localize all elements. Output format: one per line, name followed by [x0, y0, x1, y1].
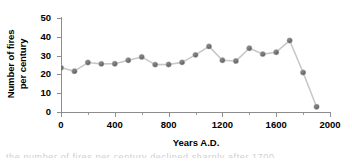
x-axis-tick-label: 2000	[310, 119, 350, 130]
x-axis-tick	[169, 113, 170, 117]
y-axis-title: Number of fires per century	[0, 12, 42, 116]
x-axis-tick	[330, 113, 331, 117]
data-point-marker	[126, 58, 131, 63]
data-point-marker	[112, 61, 117, 66]
x-axis-tick	[115, 113, 116, 117]
cut-off-caption-text: the number of fires per century declined…	[6, 153, 346, 158]
data-point-marker	[166, 62, 171, 67]
x-axis-title: Years A.D.	[61, 137, 331, 148]
y-axis-tick-label: 30	[25, 50, 51, 61]
data-point-marker	[287, 38, 292, 43]
x-axis-tick-label: 400	[95, 119, 135, 130]
x-axis-tick-label: 800	[149, 119, 189, 130]
data-point-marker	[233, 58, 238, 63]
data-point-marker	[220, 58, 225, 63]
fire-count-series	[61, 18, 330, 112]
y-axis-title-text: Number of fires per century	[5, 12, 37, 116]
data-point-marker	[300, 70, 305, 75]
data-point-marker	[247, 46, 252, 51]
data-point-marker	[152, 62, 157, 67]
x-axis-tick-label: 1600	[256, 119, 296, 130]
data-point-marker	[206, 44, 211, 49]
y-axis-tick-label: 20	[25, 68, 51, 79]
plot-area	[61, 18, 330, 112]
x-axis-minor-tick	[196, 113, 197, 115]
data-point-marker	[139, 54, 144, 59]
data-point-marker	[85, 60, 90, 65]
y-axis-title-line-1: Number of fires	[5, 30, 16, 99]
y-axis-tick-label: 40	[25, 31, 51, 42]
data-point-marker	[179, 60, 184, 65]
data-point-marker	[99, 61, 104, 66]
x-axis-tick	[61, 113, 62, 117]
x-axis-tick-label: 0	[41, 119, 81, 130]
data-point-marker	[72, 69, 77, 74]
y-axis-tick-label: 10	[25, 87, 51, 98]
x-axis-minor-tick	[142, 113, 143, 115]
x-axis-tick-label: 1200	[202, 119, 242, 130]
x-axis-minor-tick	[303, 113, 304, 115]
x-axis-minor-tick	[249, 113, 250, 115]
y-axis-tick-label: 50	[25, 12, 51, 23]
y-axis-title-line-2: per century	[17, 39, 28, 90]
x-axis-minor-tick	[88, 113, 89, 115]
y-axis-tick-label: 0	[25, 106, 51, 117]
data-point-marker	[314, 104, 319, 109]
data-point-marker	[61, 65, 64, 70]
fire-frequency-line-chart: Number of fires per century 01020304050 …	[0, 0, 352, 161]
data-point-marker	[193, 52, 198, 57]
data-point-marker	[274, 50, 279, 55]
x-axis-tick	[222, 113, 223, 117]
data-point-marker	[260, 51, 265, 56]
x-axis-tick	[276, 113, 277, 117]
